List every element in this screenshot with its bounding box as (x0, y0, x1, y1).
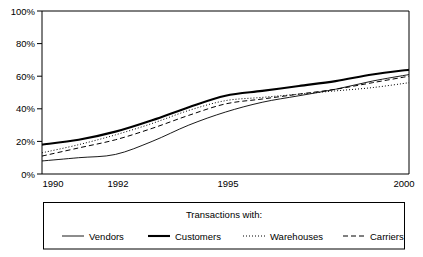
legend-label-vendors: Vendors (89, 231, 124, 242)
legend-label-warehouses: Warehouses (270, 231, 323, 242)
y-label-80: 80% (16, 38, 36, 49)
y-label-40: 40% (16, 103, 36, 114)
x-label-1995: 1995 (217, 178, 238, 189)
y-label-0: 0% (21, 169, 35, 180)
line-chart-figure: 100% 80% 60% 40% 20% 0% 1990 1992 1995 2… (0, 0, 423, 257)
legend-title: Transactions with: (186, 209, 262, 220)
y-label-60: 60% (16, 71, 36, 82)
legend-label-carriers: Carriers (370, 231, 404, 242)
y-label-20: 20% (16, 136, 36, 147)
x-label-1990: 1990 (42, 178, 63, 189)
x-label-2000: 2000 (393, 178, 414, 189)
legend-label-customers: Customers (175, 231, 221, 242)
chart-svg: 100% 80% 60% 40% 20% 0% 1990 1992 1995 2… (0, 0, 423, 257)
x-label-1992: 1992 (107, 178, 128, 189)
y-label-100: 100% (11, 6, 36, 17)
legend: Transactions with: Vendors Customers War… (44, 203, 405, 250)
